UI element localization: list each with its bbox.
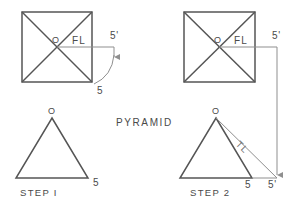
step2-elevation-projected-dim: 5': [268, 180, 277, 190]
step1-caption: STEP I: [20, 188, 58, 198]
step1-plan-base-dim: 5: [97, 86, 103, 96]
step2-plan-fold-line-label: FL: [234, 36, 248, 46]
figure-title: PYRAMID: [116, 118, 173, 128]
step1-plan-center-label: O: [52, 36, 59, 45]
step2-plan-center-label: O: [214, 36, 221, 45]
step2-elevation-base-dim: 5: [245, 180, 251, 190]
step2-plan-true-length-dim: 5': [272, 31, 281, 41]
step1-plan-fold-line-label: FL: [72, 36, 86, 46]
step2-caption: STEP 2: [190, 188, 230, 198]
step1-plan-true-length-dim: 5': [110, 31, 119, 41]
step1-elevation-apex-label: O: [48, 107, 55, 116]
step1-elevation-base-dim: 5: [93, 178, 99, 188]
step1-swing-arc: [94, 55, 114, 84]
step2-fold-line-group: [219, 47, 277, 175]
step2-elevation-apex-label: O: [212, 107, 219, 116]
step1-elevation-triangle: [16, 118, 88, 178]
step2-elevation-triangle: [180, 118, 277, 178]
step1-triangle-outline: [16, 118, 88, 178]
technical-drawing-svg: [0, 0, 293, 204]
pyramid-drawing-canvas: O FL 5' 5 O 5 STEP I PYRAMID O FL 5' O T…: [0, 0, 293, 204]
